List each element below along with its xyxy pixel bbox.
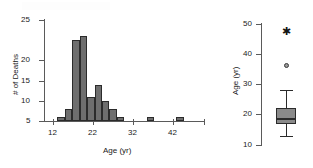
histogram-y-tick-20: 20 (21, 56, 30, 64)
histogram-x-axis-title: Age (yr) (103, 147, 131, 155)
boxplot-lower-whisker (286, 124, 287, 136)
histogram-bar (65, 109, 72, 121)
histogram-bars (50, 20, 206, 121)
boxplot-median (276, 118, 296, 120)
histogram-bar (87, 97, 94, 121)
histogram-y-tick-25: 25 (21, 16, 30, 24)
histogram-x-tick-32: 32 (128, 129, 137, 137)
histogram-bar (117, 117, 124, 121)
histogram-y-tick-mark-25 (39, 20, 45, 21)
histogram-x-tick-42: 42 (168, 129, 177, 137)
histogram-x-axis-line (44, 121, 205, 122)
histogram-bar (80, 36, 87, 121)
boxplot-lower-cap (280, 136, 293, 137)
histogram-x-tick-22: 22 (88, 129, 97, 137)
boxplot-y-tick-20: 20 (243, 110, 252, 118)
histogram-y-tick-5: 5 (26, 117, 30, 125)
histogram-bar (95, 85, 102, 121)
boxplot-y-tick-30: 30 (243, 80, 252, 88)
boxplot-glyph: ✱ (262, 23, 310, 145)
histogram-y-tick-15: 15 (21, 77, 30, 85)
boxplot-y-tick-10: 10 (243, 141, 252, 149)
histogram-y-tick-mark-15 (39, 81, 45, 82)
boxplot-panel: Age (yr) 10 20 30 40 50 ✱ (215, 0, 313, 168)
boxplot-outlier-star: ✱ (282, 29, 291, 34)
boxplot-y-tick-50: 50 (243, 20, 252, 28)
histogram-bar (72, 40, 79, 121)
histogram-bar (57, 117, 64, 121)
histogram-bar (109, 109, 116, 121)
histogram-y-tick-mark-20 (39, 60, 45, 61)
histogram-y-tick-mark-10 (39, 101, 45, 102)
histogram-y-tick-10: 10 (21, 97, 30, 105)
boxplot-upper-cap (280, 90, 293, 91)
statistics-figure: # of Deaths 5 10 15 20 25 12 22 32 42 Ag… (0, 0, 313, 168)
boxplot-outlier-circle (284, 63, 289, 68)
histogram-panel: # of Deaths 5 10 15 20 25 12 22 32 42 Ag… (0, 0, 215, 168)
boxplot-y-tick-mark-10 (256, 145, 262, 146)
boxplot-upper-whisker (286, 90, 287, 108)
histogram-x-tick-12: 12 (48, 129, 57, 137)
boxplot-y-axis-title: Age (yr) (232, 67, 240, 95)
boxplot-box (276, 108, 296, 123)
boxplot-y-tick-40: 40 (243, 50, 252, 58)
histogram-bar (102, 101, 109, 121)
histogram-bar (176, 117, 183, 121)
histogram-y-axis-title: # of Deaths (12, 54, 20, 95)
histogram-bar (147, 117, 154, 121)
histogram-y-axis-line (44, 19, 45, 122)
